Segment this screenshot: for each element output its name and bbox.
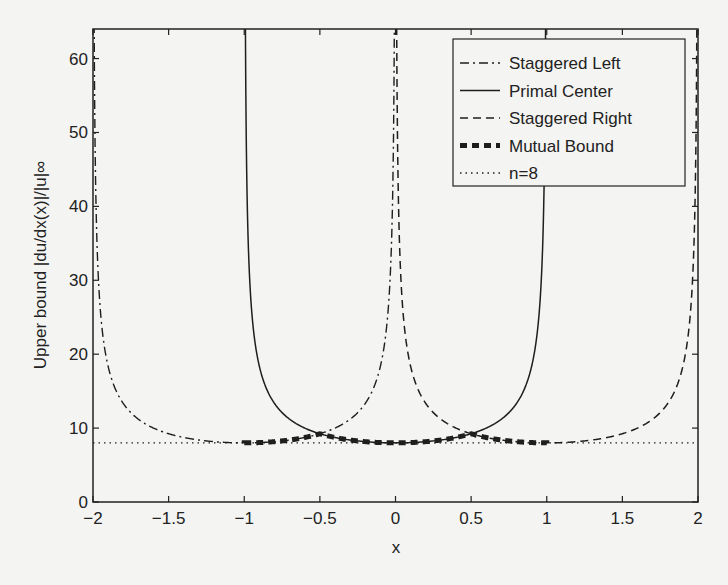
legend-label: Mutual Bound: [509, 137, 614, 156]
series-mutual-bound: [244, 434, 547, 443]
y-tick-label: 0: [79, 493, 88, 512]
x-tick-label: 1: [542, 509, 551, 528]
chart: −2−1.5−1−0.500.511.52 0102030405060 x Up…: [0, 0, 728, 585]
x-tick-label: −1.5: [152, 509, 186, 528]
x-tick-label: 0.5: [459, 509, 483, 528]
x-tick-label: 1.5: [611, 509, 635, 528]
x-axis-label: x: [392, 538, 401, 557]
legend-label: n=8: [509, 164, 538, 183]
x-tick-label: −1: [235, 509, 254, 528]
legend-label: Primal Center: [509, 82, 613, 101]
y-tick-label: 10: [69, 419, 88, 438]
y-axis-label: Upper bound |du/dx(x)|/|u|∞: [31, 161, 50, 369]
x-tick-label: 2: [693, 509, 702, 528]
y-tick-label: 60: [69, 50, 88, 69]
x-tick-label: −0.5: [303, 509, 337, 528]
y-tick-label: 40: [69, 197, 88, 216]
series-staggered-left: [93, 0, 395, 443]
y-tick-label: 20: [69, 345, 88, 364]
x-tick-label: 0: [391, 509, 400, 528]
legend: Staggered LeftPrimal CenterStaggered Rig…: [453, 39, 685, 186]
legend-label: Staggered Left: [509, 54, 621, 73]
y-tick-label: 50: [69, 123, 88, 142]
y-tick-labels: 0102030405060: [69, 50, 88, 512]
x-tick-labels: −2−1.5−1−0.500.511.52: [83, 509, 702, 528]
legend-label: Staggered Right: [509, 109, 632, 128]
y-tick-label: 30: [69, 271, 88, 290]
